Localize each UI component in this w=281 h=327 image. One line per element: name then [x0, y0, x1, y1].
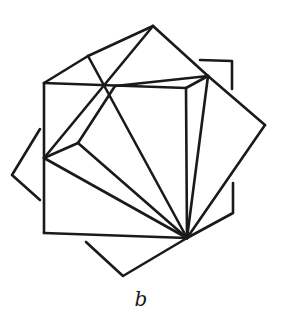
rim-top-right-line — [153, 26, 208, 76]
diag-apex-to-left-line — [44, 26, 153, 158]
right-cross-to-tip-line — [208, 76, 265, 125]
rim-top-left-line — [88, 26, 153, 56]
inner-to-bottom-line — [78, 143, 187, 238]
cube-right-edge-line — [186, 88, 187, 238]
left-bracket — [12, 129, 40, 200]
bottom-bracket — [86, 238, 187, 276]
figure-caption: b — [128, 287, 154, 311]
cube-flap-diagram — [0, 0, 281, 327]
rim-left-line — [44, 56, 88, 83]
cube-bottom-edge-line — [44, 233, 187, 238]
